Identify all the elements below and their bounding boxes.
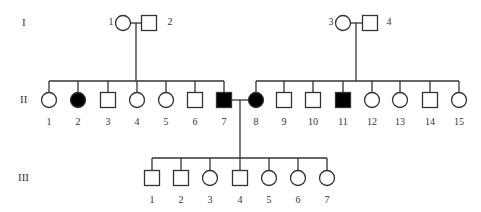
individual-number: 9 — [282, 116, 287, 127]
individual-number: 14 — [425, 116, 435, 127]
individual-number: 4 — [238, 194, 243, 205]
unaffected-female-ii-13 — [393, 93, 408, 108]
generation-label-i: I — [22, 16, 26, 28]
affected-male-ii-11 — [336, 93, 351, 108]
unaffected-female-iii-5 — [262, 171, 277, 186]
unaffected-male-i-2 — [142, 16, 157, 31]
generation-label-iii: III — [18, 171, 29, 183]
unaffected-female-ii-15 — [452, 93, 467, 108]
generation-label-ii: II — [20, 93, 27, 105]
individual-number: 4 — [387, 16, 392, 27]
individual-number: 1 — [109, 16, 114, 27]
individual-number: 2 — [179, 194, 184, 205]
individual-number: 6 — [193, 116, 198, 127]
unaffected-male-ii-9 — [277, 93, 292, 108]
unaffected-male-iii-2 — [174, 171, 189, 186]
individual-number: 2 — [168, 16, 173, 27]
unaffected-male-i-4 — [363, 16, 378, 31]
unaffected-male-iii-1 — [145, 171, 160, 186]
affected-male-ii-7 — [217, 93, 232, 108]
individual-number: 6 — [296, 194, 301, 205]
unaffected-female-iii-7 — [320, 171, 335, 186]
individual-number: 4 — [135, 116, 140, 127]
individual-number: 3 — [329, 16, 334, 27]
individual-number: 5 — [267, 194, 272, 205]
individual-number: 5 — [164, 116, 169, 127]
unaffected-female-iii-6 — [291, 171, 306, 186]
unaffected-female-ii-12 — [365, 93, 380, 108]
individual-number: 7 — [325, 194, 330, 205]
unaffected-female-ii-1 — [42, 93, 57, 108]
unaffected-female-ii-4 — [130, 93, 145, 108]
unaffected-female-iii-3 — [203, 171, 218, 186]
individual-number: 3 — [208, 194, 213, 205]
unaffected-male-iii-4 — [233, 171, 248, 186]
affected-female-ii-2 — [71, 93, 86, 108]
individual-number: 12 — [367, 116, 377, 127]
individual-number: 2 — [76, 116, 81, 127]
individual-number: 1 — [47, 116, 52, 127]
individual-number: 3 — [106, 116, 111, 127]
unaffected-male-ii-6 — [188, 93, 203, 108]
individual-number: 7 — [222, 116, 227, 127]
affected-female-ii-8 — [249, 93, 264, 108]
individual-number: 1 — [150, 194, 155, 205]
unaffected-female-i-3 — [336, 16, 351, 31]
unaffected-male-ii-10 — [306, 93, 321, 108]
individual-number: 10 — [308, 116, 318, 127]
unaffected-male-ii-14 — [423, 93, 438, 108]
individual-number: 8 — [254, 116, 259, 127]
individual-number: 15 — [454, 116, 464, 127]
unaffected-female-i-1 — [116, 16, 131, 31]
individual-number: 11 — [338, 116, 348, 127]
pedigree-chart — [0, 0, 481, 212]
unaffected-male-ii-3 — [101, 93, 116, 108]
individual-number: 13 — [395, 116, 405, 127]
unaffected-female-ii-5 — [159, 93, 174, 108]
